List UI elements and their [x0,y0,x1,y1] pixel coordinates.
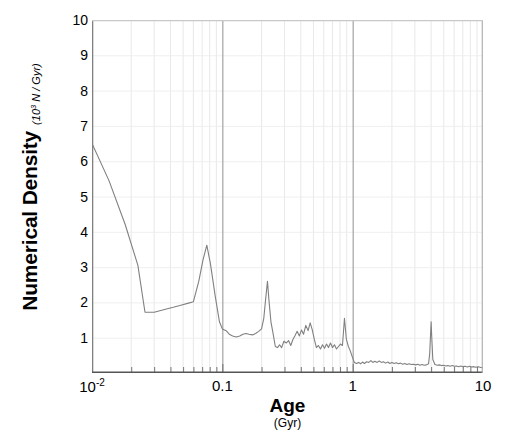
x-axis-title-units: (Gyr) [92,416,483,431]
y-tick-label: 1 [62,330,88,346]
x-tick-label: 10 [475,377,492,394]
y-axis-tick-labels: 12345678910 [58,0,88,440]
y-tick-label: 8 [62,83,88,99]
plot-area [92,20,483,373]
y-axis-title: Numerical Density (103 N / Gyr) [0,0,60,373]
y-units-pre: (10 [31,108,43,124]
y-axis-title-main: Numerical Density [18,130,42,310]
y-tick-label: 5 [62,189,88,205]
y-tick-label: 7 [62,118,88,134]
chart-svg [92,20,483,373]
y-tick-label: 9 [62,47,88,63]
minor-gridlines [131,20,477,373]
y-axis-title-units: (103 N / Gyr) [29,63,43,125]
x-axis-title-main: Age [92,396,483,416]
horizontal-gridlines [92,21,483,339]
x-tick-label: 10-2 [79,377,105,395]
y-tick-label: 2 [62,294,88,310]
figure-canvas: Numerical Density (103 N / Gyr) 12345678… [0,0,505,440]
y-tick-label: 10 [62,12,88,28]
x-axis-title: Age (Gyr) [92,396,483,431]
data-series-line [92,144,483,368]
y-tick-label: 6 [62,153,88,169]
y-units-post: N / Gyr) [31,63,43,105]
x-tick-label: 0.1 [212,377,233,394]
y-units-exponent: 3 [29,104,38,108]
x-tick-label: 1 [348,377,356,394]
y-tick-label: 3 [62,259,88,275]
y-tick-label: 4 [62,224,88,240]
major-decade-gridlines [223,20,353,373]
